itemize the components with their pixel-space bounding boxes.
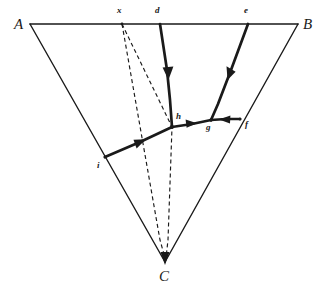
point-marker-f [239, 118, 242, 121]
edge-BC [165, 24, 298, 262]
vertex-label-A: A [14, 17, 23, 32]
vertex-label-C: C [159, 269, 169, 284]
stroke-d-to-h [160, 24, 172, 127]
triangle-outline [30, 24, 298, 262]
directed-path-e-to-g [211, 24, 248, 120]
point-label-x: x [117, 6, 122, 15]
arrowhead-d-to-h [163, 67, 174, 81]
point-marker-i [104, 156, 107, 159]
arrowhead-dashed-into-C [161, 252, 170, 265]
directed-path-f-to-g [211, 115, 240, 123]
point-label-g: g [206, 123, 211, 132]
point-ticks [104, 23, 242, 159]
point-label-h: h [176, 112, 181, 121]
point-label-i: i [97, 161, 100, 170]
arrowhead-i-to-h [134, 139, 147, 148]
directed-path-d-to-h [160, 24, 173, 127]
edge-AC [30, 24, 165, 262]
geometry-figure: A B C x d e h g f i [0, 0, 322, 292]
directed-path-i-to-h [105, 127, 172, 157]
point-label-d: d [155, 6, 160, 15]
figure-canvas [0, 0, 322, 292]
vertex-label-B: B [303, 17, 312, 32]
arrowhead-h-to-g [186, 120, 197, 128]
point-label-f: f [245, 120, 248, 129]
point-marker-x [121, 23, 124, 26]
point-marker-h [170, 125, 174, 129]
point-label-e: e [244, 6, 248, 15]
arrowhead-f-to-g [219, 115, 230, 123]
